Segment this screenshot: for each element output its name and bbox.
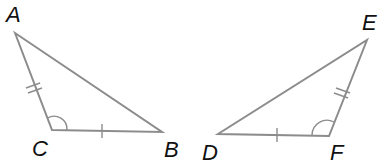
vertex-label-d: D (202, 140, 218, 165)
congruent-triangles-diagram: A C B E D F (0, 0, 391, 166)
double-tick-mark-ac (26, 83, 42, 93)
vertex-label-c: C (32, 136, 48, 161)
triangle-acb-outline (15, 33, 162, 132)
vertex-label-b: B (164, 137, 179, 162)
vertex-label-a: A (4, 2, 21, 27)
vertex-label-f: F (330, 140, 345, 165)
vertex-label-e: E (362, 10, 377, 35)
triangle-dfe: E D F (202, 10, 377, 165)
triangle-dfe-outline (218, 40, 367, 136)
triangle-acb: A C B (4, 2, 179, 162)
